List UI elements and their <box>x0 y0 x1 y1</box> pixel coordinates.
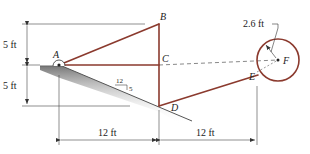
dashed-reference-line <box>159 60 278 65</box>
dim-vertical-top-label: 5 ft <box>3 39 17 50</box>
truss-members <box>59 24 258 106</box>
point-c-label: C <box>162 53 169 64</box>
pulley-center <box>277 59 280 62</box>
diagram-canvas: 12 5 5 ft 5 ft 12 ft 12 ft <box>0 0 310 154</box>
member-ab <box>59 24 159 65</box>
inclined-ground <box>40 66 192 124</box>
point-f-label: F <box>282 55 290 66</box>
truss-diagram: 12 5 5 ft 5 ft 12 ft 12 ft <box>0 0 310 154</box>
point-a-label: A <box>52 49 60 60</box>
slope-run-label: 12 <box>116 77 124 85</box>
dim-vertical-bottom-label: 5 ft <box>3 80 17 91</box>
point-d-label: D <box>170 102 179 113</box>
radius-label: 2.6 ft <box>243 18 264 29</box>
pin-support-a <box>53 60 65 67</box>
point-b-label: B <box>160 11 166 22</box>
dim-horizontal-left-label: 12 ft <box>98 127 117 138</box>
dim-horizontal-right-label: 12 ft <box>196 127 215 138</box>
point-e-label: E <box>248 71 255 82</box>
slope-rise-label: 5 <box>129 85 133 93</box>
dimension-lines <box>22 24 257 145</box>
